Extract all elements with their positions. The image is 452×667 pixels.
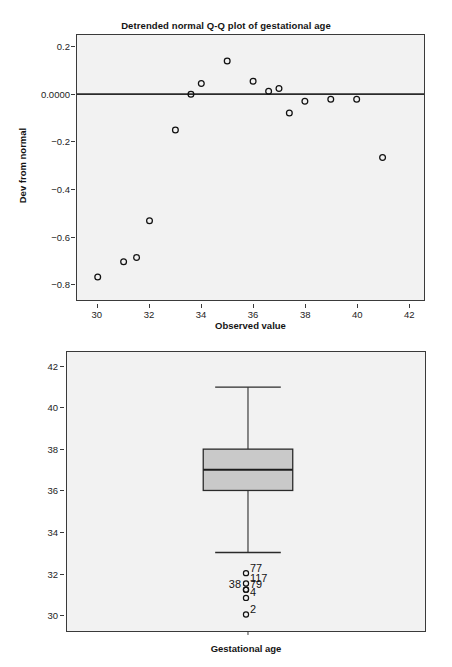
box-y-tick-mark <box>60 490 64 491</box>
qq-plot-title: Detrended normal Q-Q plot of gestational… <box>0 20 452 31</box>
qq-y-tick-label: −0.8 <box>51 279 70 290</box>
boxplot-plot-area: 77117387942 <box>66 351 426 632</box>
scatter-point <box>121 259 127 265</box>
qq-y-tick-label: −0.6 <box>51 231 70 242</box>
qq-x-axis-label: Observed value <box>76 320 425 331</box>
box-y-axis-ticks: 42403836343230 <box>14 351 58 632</box>
box-y-tick-mark <box>60 532 64 533</box>
box-y-tick-label: 36 <box>47 485 58 496</box>
box-y-tick-label: 32 <box>47 568 58 579</box>
boxplot-canvas: 77117387942 <box>67 352 425 631</box>
scatter-point <box>286 110 292 116</box>
box-y-tick-label: 40 <box>47 402 58 413</box>
box-y-tick-mark <box>60 366 64 367</box>
scatter-point <box>147 218 153 224</box>
qq-y-tick-label: −0.4 <box>51 183 70 194</box>
qq-y-tick-mark <box>71 46 75 47</box>
scatter-point <box>328 96 334 102</box>
scatter-point <box>224 58 230 64</box>
box-y-tick-mark <box>60 449 64 450</box>
box-y-tick-label: 38 <box>47 443 58 454</box>
qq-x-tick-mark <box>357 304 358 308</box>
qq-y-tick-mark <box>71 284 75 285</box>
box-y-tick-label: 30 <box>47 610 58 621</box>
qq-x-tick-mark <box>201 304 202 308</box>
qq-y-tick-mark <box>71 189 75 190</box>
box-y-tick-label: 42 <box>47 360 58 371</box>
qq-x-tick-label: 36 <box>248 309 259 320</box>
qq-x-tick-mark <box>409 304 410 308</box>
scatter-point <box>354 96 360 102</box>
scatter-point <box>302 98 308 104</box>
qq-x-tick-label: 42 <box>404 309 415 320</box>
qq-x-tick-label: 32 <box>144 309 155 320</box>
boxplot-outlier-point <box>243 581 248 586</box>
gestational-age-boxplot-figure: 42403836343230 77117387942 Gestational a… <box>0 340 452 667</box>
boxplot-outlier-label: 2 <box>250 603 256 615</box>
qq-x-tick-mark <box>305 304 306 308</box>
scatter-point <box>250 78 256 84</box>
boxplot-outlier-point <box>243 612 248 617</box>
scatter-point <box>380 155 386 161</box>
scatter-point <box>134 255 140 261</box>
boxplot-outlier-point <box>243 595 248 600</box>
qq-y-tick-mark <box>71 141 75 142</box>
boxplot-outlier-label: 4 <box>250 586 256 598</box>
box-y-tick-mark <box>60 407 64 408</box>
qq-x-axis-ticks: 30323436384042 <box>76 304 425 320</box>
detrended-qq-figure: Detrended normal Q-Q plot of gestational… <box>0 0 452 340</box>
qq-y-tick-mark <box>71 237 75 238</box>
qq-x-tick-label: 30 <box>92 309 103 320</box>
qq-x-tick-label: 40 <box>352 309 363 320</box>
boxplot-outlier-point <box>243 587 248 592</box>
qq-y-tick-label: 0.0000 <box>41 88 70 99</box>
qq-y-axis-ticks: 0.20.0000−0.2−0.4−0.6−0.8 <box>16 34 70 301</box>
scatter-point <box>198 81 204 87</box>
scatter-point <box>276 86 282 92</box>
box-x-axis-label: Gestational age <box>66 643 426 654</box>
boxplot-outlier-point <box>243 571 248 576</box>
qq-x-tick-mark <box>97 304 98 308</box>
qq-x-tick-label: 38 <box>300 309 311 320</box>
box-y-tick-label: 34 <box>47 527 58 538</box>
qq-scatter-canvas <box>77 35 424 300</box>
qq-y-tick-label: −0.2 <box>51 136 70 147</box>
box-y-tick-mark <box>60 574 64 575</box>
qq-x-tick-label: 34 <box>196 309 207 320</box>
qq-x-tick-mark <box>149 304 150 308</box>
qq-y-tick-mark <box>71 94 75 95</box>
qq-x-tick-mark <box>253 304 254 308</box>
scatter-point <box>95 274 101 280</box>
boxplot-outlier-label: 38 <box>229 578 241 590</box>
qq-y-tick-label: 0.2 <box>57 40 70 51</box>
box-y-tick-mark <box>60 615 64 616</box>
qq-plot-area <box>76 34 425 301</box>
scatter-point <box>173 127 179 133</box>
